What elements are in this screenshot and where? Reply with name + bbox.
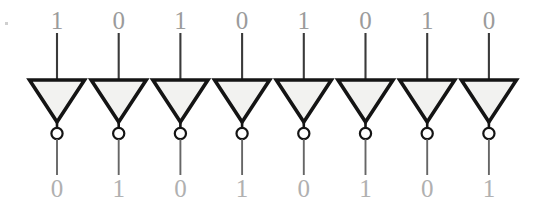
input-value-7: 1 (421, 7, 434, 34)
inversion-bubble-8 (483, 128, 494, 139)
inverter-2[interactable]: 01 (91, 7, 146, 202)
not-gate-triangle-1[interactable] (30, 80, 85, 122)
inverter-7[interactable]: 10 (400, 7, 455, 202)
input-value-4: 0 (236, 7, 249, 34)
inversion-bubble-3 (175, 128, 186, 139)
circuit-figure: 1001100110011001 (0, 0, 545, 215)
inversion-bubble-2 (113, 128, 124, 139)
not-gate-triangle-5[interactable] (276, 80, 331, 122)
circuit-canvas: 1001100110011001 (0, 0, 545, 215)
inversion-bubble-5 (298, 128, 309, 139)
input-value-5: 1 (298, 7, 311, 34)
output-value-2: 1 (112, 175, 125, 202)
not-gate-triangle-6[interactable] (338, 80, 393, 122)
output-value-3: 0 (174, 175, 187, 202)
inversion-bubble-7 (422, 128, 433, 139)
inverter-5[interactable]: 10 (276, 7, 331, 202)
not-gate-triangle-7[interactable] (400, 80, 455, 122)
input-value-2: 0 (112, 7, 125, 34)
output-value-1: 0 (51, 175, 64, 202)
inversion-bubble-6 (360, 128, 371, 139)
inverter-3[interactable]: 10 (153, 7, 208, 202)
output-value-8: 1 (483, 175, 496, 202)
output-value-5: 0 (298, 175, 311, 202)
not-gate-triangle-8[interactable] (461, 80, 516, 122)
scan-speck-0 (5, 22, 8, 25)
input-value-1: 1 (51, 7, 64, 34)
input-value-6: 0 (359, 7, 372, 34)
output-value-7: 0 (421, 175, 434, 202)
input-value-3: 1 (174, 7, 187, 34)
inversion-bubble-1 (51, 128, 62, 139)
output-value-6: 1 (359, 175, 372, 202)
input-value-8: 0 (483, 7, 496, 34)
not-gate-triangle-4[interactable] (215, 80, 270, 122)
output-value-4: 1 (236, 175, 249, 202)
inverter-4[interactable]: 01 (215, 7, 270, 202)
inverter-6[interactable]: 01 (338, 7, 393, 202)
inverter-8[interactable]: 01 (461, 7, 516, 202)
inverter-1[interactable]: 10 (30, 7, 85, 202)
not-gate-triangle-3[interactable] (153, 80, 208, 122)
inversion-bubble-4 (237, 128, 248, 139)
not-gate-triangle-2[interactable] (91, 80, 146, 122)
